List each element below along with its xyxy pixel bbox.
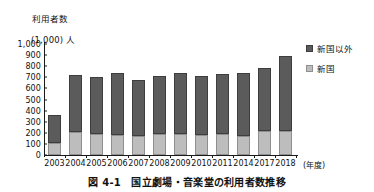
y-axis-tick-mark bbox=[44, 132, 47, 133]
bar-segment-shinkoku bbox=[279, 131, 292, 155]
x-axis-label-2011: 2011 bbox=[212, 159, 232, 168]
bar-segment-other bbox=[237, 73, 250, 136]
bar-2011[interactable] bbox=[216, 74, 229, 155]
bar-segment-other bbox=[216, 74, 229, 134]
y-axis-tick-mark bbox=[44, 66, 47, 67]
legend-swatch-icon bbox=[306, 45, 313, 52]
x-axis-label-2010: 2010 bbox=[191, 159, 211, 168]
x-axis-label-2003: 2003 bbox=[44, 159, 64, 168]
bar-2006[interactable] bbox=[111, 73, 124, 155]
y-axis-tick-label: 300 bbox=[25, 117, 44, 126]
bar-2007[interactable] bbox=[132, 80, 145, 155]
bar-segment-shinkoku bbox=[237, 136, 250, 155]
y-axis-tick-label: 800 bbox=[25, 62, 44, 71]
bar-segment-other bbox=[153, 76, 166, 135]
bar-segment-other bbox=[48, 115, 61, 143]
x-axis-label-2004: 2004 bbox=[65, 159, 85, 168]
y-axis-tick-mark bbox=[44, 99, 47, 100]
x-axis-line bbox=[44, 155, 298, 156]
bar-2017[interactable] bbox=[258, 68, 271, 155]
y-axis-tick-mark bbox=[44, 44, 47, 45]
bar-segment-other bbox=[111, 73, 124, 135]
bar-2010[interactable] bbox=[195, 76, 208, 155]
x-axis-tick-mark bbox=[296, 155, 297, 158]
bar-segment-other bbox=[258, 68, 271, 132]
x-axis-tick-mark bbox=[233, 155, 234, 158]
legend-label: 新国以外 bbox=[317, 42, 353, 54]
x-axis-label-2009: 2009 bbox=[170, 159, 190, 168]
x-axis-tick-mark bbox=[170, 155, 171, 158]
y-axis-tick-label: 400 bbox=[25, 106, 44, 115]
legend-label: 新国 bbox=[317, 62, 335, 74]
bar-2014[interactable] bbox=[237, 73, 250, 155]
y-axis-tick-label: 1,000 bbox=[18, 40, 44, 49]
bar-segment-other bbox=[90, 77, 103, 135]
y-axis-title-line1: 利用者数 bbox=[32, 14, 69, 24]
y-axis-tick-label: 100 bbox=[25, 139, 44, 148]
bar-2004[interactable] bbox=[69, 75, 82, 155]
x-axis-tick-mark bbox=[86, 155, 87, 158]
y-axis-tick-mark bbox=[44, 155, 47, 156]
bar-segment-other bbox=[174, 73, 187, 134]
bar-segment-shinkoku bbox=[216, 134, 229, 155]
bar-segment-other bbox=[69, 75, 82, 133]
y-axis-tick-label: 900 bbox=[25, 51, 44, 60]
x-axis-label-2017: 2017 bbox=[254, 159, 274, 168]
x-axis-tick-mark bbox=[128, 155, 129, 158]
x-axis-label-2005: 2005 bbox=[86, 159, 106, 168]
x-axis-tick-mark bbox=[191, 155, 192, 158]
x-axis-tick-mark bbox=[65, 155, 66, 158]
y-axis-tick-mark bbox=[44, 143, 47, 144]
y-axis-tick-label: 500 bbox=[25, 95, 44, 104]
x-axis-label-2007: 2007 bbox=[128, 159, 148, 168]
figure-caption: 図 4-1 国立劇場・音楽堂の利用者数推移 bbox=[0, 174, 374, 189]
bar-2008[interactable] bbox=[153, 76, 166, 155]
y-axis-tick-mark bbox=[44, 121, 47, 122]
x-axis-tick-mark bbox=[212, 155, 213, 158]
y-axis-tick-mark bbox=[44, 55, 47, 56]
x-axis-tick-mark bbox=[149, 155, 150, 158]
x-axis-tick-mark bbox=[107, 155, 108, 158]
bar-segment-shinkoku bbox=[195, 135, 208, 155]
x-axis-label-2018: 2018 bbox=[275, 159, 295, 168]
legend: 新国以外新国 bbox=[306, 42, 353, 82]
bar-segment-other bbox=[132, 80, 145, 136]
bar-2009[interactable] bbox=[174, 73, 187, 155]
legend-swatch-icon bbox=[306, 65, 313, 72]
x-axis-tick-mark bbox=[254, 155, 255, 158]
bar-segment-shinkoku bbox=[153, 134, 166, 155]
bar-segment-shinkoku bbox=[90, 134, 103, 155]
bar-segment-shinkoku bbox=[111, 135, 124, 155]
x-axis-unit-label: (年度) bbox=[303, 159, 325, 170]
plot-area: 01002003004005006007008009001,000 bbox=[44, 44, 296, 155]
bar-segment-shinkoku bbox=[258, 131, 271, 155]
x-axis-label-2014: 2014 bbox=[233, 159, 253, 168]
legend-item-shinkoku[interactable]: 新国 bbox=[306, 62, 353, 74]
legend-item-other[interactable]: 新国以外 bbox=[306, 42, 353, 54]
y-axis-tick-label: 700 bbox=[25, 73, 44, 82]
y-axis-tick-label: 0 bbox=[36, 151, 44, 160]
bar-2003[interactable] bbox=[48, 115, 61, 156]
bar-2005[interactable] bbox=[90, 77, 103, 155]
x-axis-tick-mark bbox=[275, 155, 276, 158]
x-axis-label-2006: 2006 bbox=[107, 159, 127, 168]
bar-segment-other bbox=[195, 76, 208, 135]
bar-segment-shinkoku bbox=[132, 136, 145, 155]
y-axis-tick-label: 600 bbox=[25, 84, 44, 93]
bar-segment-other bbox=[279, 56, 292, 131]
bar-segment-shinkoku bbox=[69, 132, 82, 155]
x-axis-label-2008: 2008 bbox=[149, 159, 169, 168]
y-axis-tick-label: 200 bbox=[25, 128, 44, 137]
bar-segment-shinkoku bbox=[48, 143, 61, 155]
y-axis-tick-mark bbox=[44, 77, 47, 78]
y-axis-tick-mark bbox=[44, 88, 47, 89]
bar-segment-shinkoku bbox=[174, 134, 187, 155]
bar-2018[interactable] bbox=[279, 56, 292, 155]
y-axis-tick-mark bbox=[44, 110, 47, 111]
